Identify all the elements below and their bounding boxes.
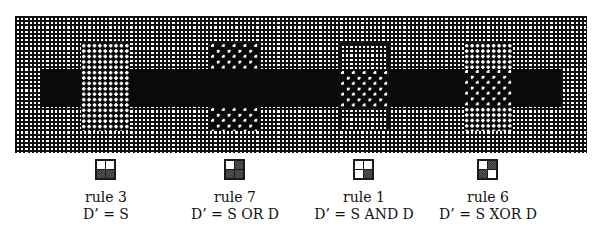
rule1-equation: D’ = S AND D [294,206,434,222]
icon-quadrant [106,161,114,169]
rule6-truth-icon [477,159,498,180]
icon-quadrant [355,170,363,178]
icon-quadrant [479,161,487,169]
icon-quadrant [364,170,372,178]
rule7-truth-icon [224,159,245,180]
rule1-label: rule 1 [294,189,434,205]
icon-quadrant [97,170,105,178]
rule7-result-rect [210,43,259,131]
rule1-bottom-grid [340,108,388,131]
rule7-bottom-pattern [210,107,259,131]
rule7-mid-black [210,69,259,107]
rule6-label: rule 6 [418,189,558,205]
rule3-equation: D’ = S [36,206,176,222]
rule1-result-rect [339,43,389,131]
rule3-truth-icon [95,159,116,180]
icon-quadrant [226,161,234,169]
icon-quadrant [235,170,243,178]
rule6-equation: D’ = S XOR D [418,206,558,222]
icon-quadrant [226,170,234,178]
rule7-top-pattern [210,43,259,69]
rule1-top-grid [340,44,388,70]
icon-quadrant [355,161,363,169]
icon-quadrant [97,161,105,169]
icon-quadrant [488,170,496,178]
rule7-label: rule 7 [165,189,305,205]
icon-quadrant [235,161,243,169]
rule1-truth-icon [353,159,374,180]
rule3-result-rect [81,43,130,131]
rule3-label: rule 3 [36,189,176,205]
rule1-mid-pattern [340,70,388,108]
rule6-top-pattern [464,43,513,69]
icon-quadrant [364,161,372,169]
icon-quadrant [488,161,496,169]
icon-quadrant [106,170,114,178]
rule6-result-rect [464,43,513,131]
rule7-equation: D’ = S OR D [165,206,305,222]
rule6-bottom-pattern [464,107,513,131]
rule6-mid-pattern [464,69,513,107]
icon-quadrant [479,170,487,178]
